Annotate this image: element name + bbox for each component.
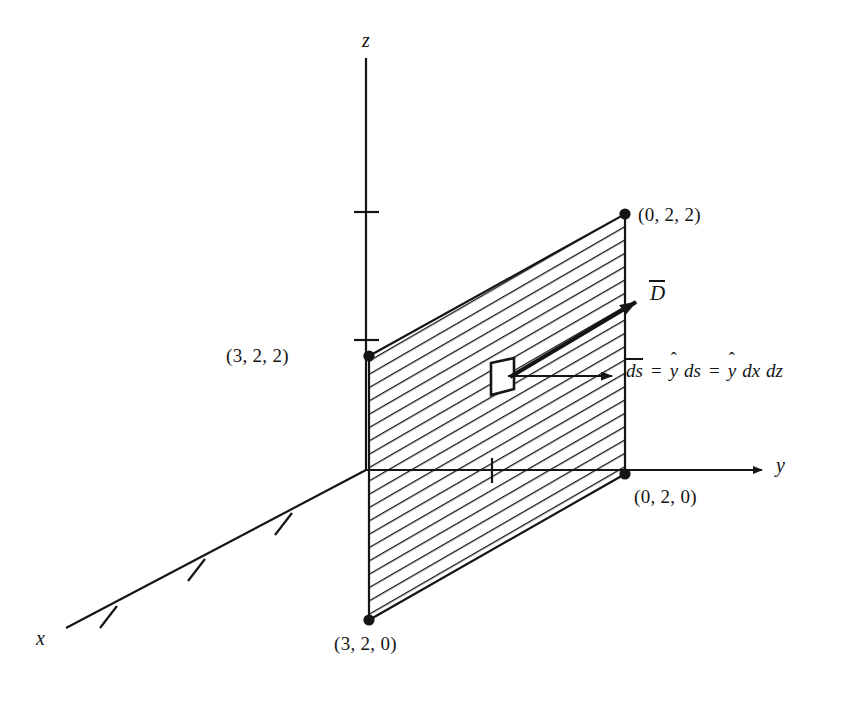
z-axis-label: z bbox=[362, 30, 370, 50]
vertex-label-0-2-2: (0, 2, 2) bbox=[638, 205, 701, 224]
ds-equation-label: ds=yds=ydxdz bbox=[626, 360, 783, 380]
dx-symbol: dx bbox=[742, 360, 760, 381]
dot-0-2-0 bbox=[619, 468, 630, 479]
dot-0-2-2 bbox=[619, 208, 630, 219]
patch-outline bbox=[369, 214, 625, 620]
vertex-label-3-2-0: (3, 2, 0) bbox=[334, 634, 397, 653]
ds-scalar-1: ds bbox=[684, 360, 701, 381]
x-axis-label: x bbox=[36, 628, 45, 648]
equals-sign-2: = bbox=[707, 360, 722, 381]
diagram-canvas bbox=[0, 0, 865, 702]
x-axis bbox=[66, 470, 366, 628]
equals-sign-1: = bbox=[649, 360, 664, 381]
vector-field-surface-diagram: z y x (3, 2, 2) (0, 2, 2) (0, 2, 0) (3, … bbox=[0, 0, 865, 702]
vertex-label-3-2-2: (3, 2, 2) bbox=[226, 346, 289, 365]
D-vector-label: D bbox=[650, 283, 665, 304]
y-hat-symbol-1: y bbox=[670, 360, 678, 380]
surface-patch bbox=[369, 214, 625, 620]
D-vector-symbol: D bbox=[650, 283, 665, 304]
dot-3-2-2 bbox=[363, 350, 374, 361]
vertex-label-0-2-0: (0, 2, 0) bbox=[634, 487, 697, 506]
y-hat-symbol-2: y bbox=[728, 360, 736, 380]
ds-vector-symbol: ds bbox=[626, 361, 643, 380]
dot-3-2-0 bbox=[363, 614, 374, 625]
y-axis-label: y bbox=[776, 455, 785, 475]
dz-symbol: dz bbox=[766, 360, 783, 381]
